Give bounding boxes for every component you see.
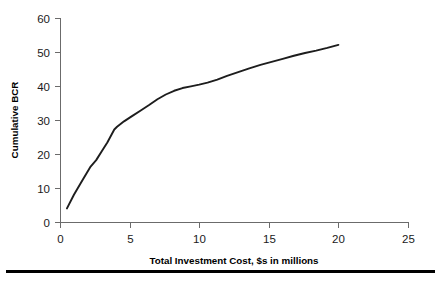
y-tick-label: 60 [37,13,50,25]
footer-divider-rule [6,270,435,273]
data-series-cumulative-bcr [67,45,338,209]
plot-axes [60,18,408,223]
y-axis-tick-labels: 0102030405060 [37,13,50,229]
x-axis-tick-labels: 0510152025 [57,233,415,245]
y-tick-label: 50 [37,47,50,59]
x-tick-label: 15 [263,233,276,245]
x-tick-label: 10 [193,233,206,245]
chart-canvas: 0102030405060 0510152025 Cumulative BCR … [0,0,441,281]
x-tick-label: 5 [127,233,133,245]
y-tick-label: 0 [44,217,50,229]
y-tick-label: 20 [37,149,50,161]
x-tick-label: 25 [402,233,415,245]
y-axis-title: Cumulative BCR [9,82,20,159]
y-tick-label: 40 [37,81,50,93]
x-tick-label: 20 [332,233,345,245]
y-tick-label: 10 [37,183,50,195]
cumulative-bcr-chart: 0102030405060 0510152025 Cumulative BCR … [0,0,441,281]
x-tick-label: 0 [57,233,63,245]
chart-screenshot: 0102030405060 0510152025 Cumulative BCR … [0,0,441,281]
y-axis-ticks [55,19,60,223]
y-tick-label: 30 [37,115,50,127]
x-axis-title: Total Investment Cost, $s in millions [149,255,319,266]
